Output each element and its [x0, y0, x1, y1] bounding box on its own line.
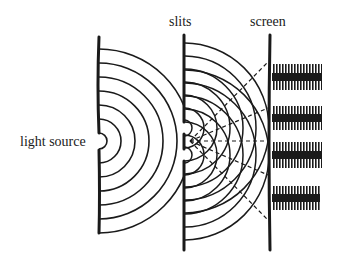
label-light-source: light source [20, 134, 86, 149]
interference-fringes [272, 64, 322, 210]
double-slit-diagram: light source slits screen [0, 0, 345, 268]
label-slits: slits [169, 14, 192, 29]
single-slit-barrier [98, 37, 100, 233]
screen [269, 35, 270, 250]
label-screen: screen [250, 14, 286, 29]
